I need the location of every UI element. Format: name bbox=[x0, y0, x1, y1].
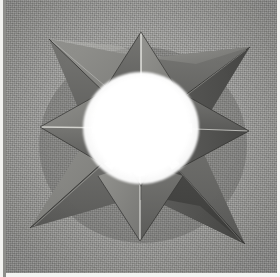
right-paper-margin bbox=[277, 0, 280, 277]
bottom-paper-margin bbox=[0, 273, 280, 277]
origami-star-photograph bbox=[0, 0, 280, 277]
origami-star-figure bbox=[0, 0, 280, 277]
left-border-rule bbox=[3, 0, 6, 277]
